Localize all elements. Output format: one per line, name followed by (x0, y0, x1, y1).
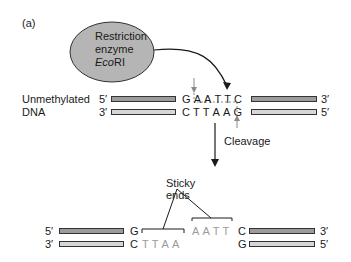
enzyme-italic: Eco (95, 56, 114, 68)
down-arrow (211, 159, 219, 167)
right-fragment-bottom-base: G (238, 238, 247, 250)
sticky-ends-label-line2: ends (166, 189, 190, 201)
right-fragment-top-base: C (238, 225, 246, 237)
diagram-graphics (0, 0, 351, 262)
left-fragment-bottom-end: 3′ (45, 238, 53, 250)
enzyme-label-line1: Restriction (95, 30, 147, 42)
bottom-strand-right-end: 5′ (321, 106, 329, 118)
left-sticky-overhang: T T A A (142, 238, 179, 250)
right-fragment-top-bar (249, 228, 315, 234)
dna-label-line1: Unmethylated (22, 93, 90, 105)
left-fragment-top-base: G (130, 225, 139, 237)
bottom-strand-right-bar (251, 109, 317, 115)
enzyme-label-line2: enzyme (95, 43, 134, 55)
right-fragment-bottom-bar (249, 241, 315, 247)
right-fragment-bottom-end: 5′ (320, 238, 328, 250)
left-fragment-top-bar (59, 228, 124, 234)
top-strand-right-end: 3′ (321, 93, 329, 105)
top-strand-sequence: G A A T T C (182, 93, 242, 105)
right-fragment-top-end: 3′ (320, 225, 328, 237)
cleavage-label: Cleavage (224, 135, 270, 147)
left-fragment-bottom-base: C (130, 238, 138, 250)
left-fragment-bottom-bar (59, 241, 124, 247)
top-strand-left-bar (111, 96, 176, 102)
top-strand-right-bar (251, 96, 317, 102)
dna-label-line2: DNA (22, 106, 45, 118)
right-sticky-overhang: A A T T (192, 225, 229, 237)
bottom-strand-sequence: C T T A A G (182, 106, 242, 118)
bottom-strand-left-bar (111, 109, 176, 115)
curved-arrow-head (223, 82, 231, 90)
enzyme-roman: RI (114, 56, 125, 68)
enzyme-label-line3: EcoRI (95, 56, 125, 68)
top-strand-left-end: 5′ (99, 93, 107, 105)
left-fragment-top-end: 5′ (45, 225, 53, 237)
sticky-ends-label-line1: Sticky (166, 177, 195, 189)
bottom-strand-left-end: 3′ (99, 106, 107, 118)
